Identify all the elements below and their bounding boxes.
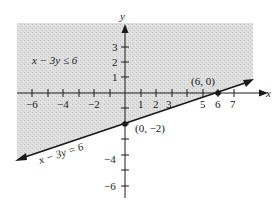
y-tick-label: 2 — [112, 56, 118, 68]
y-tick-label: 1 — [112, 71, 118, 83]
x-tick-label: 7 — [230, 98, 236, 110]
point-x-intercept — [215, 90, 221, 96]
x-tick-label: −2 — [88, 98, 100, 110]
x-tick-label: −4 — [57, 98, 69, 110]
x-axis-label: x — [265, 87, 271, 99]
x-tick-label: 2 — [153, 98, 159, 110]
y-tick-label: −6 — [104, 180, 116, 192]
inequality-label: x − 3y ≤ 6 — [31, 54, 78, 66]
x-tick-label: 6 — [215, 98, 221, 110]
x-tick-label: 5 — [200, 98, 206, 110]
line-arrow-right-icon — [243, 79, 254, 87]
y-tick-label: −4 — [104, 153, 116, 165]
y-tick-label: 3 — [112, 41, 118, 53]
x-tick-label: 1 — [138, 98, 144, 110]
point-y-intercept — [122, 121, 128, 127]
inequality-graph: y x −6 −4 −2 1 2 3 5 6 7 3 2 1 −4 −6 x −… — [0, 0, 275, 211]
x-tick-label: 3 — [166, 98, 172, 110]
point-label-x-intercept: (6, 0) — [191, 75, 215, 88]
y-axis-label: y — [119, 10, 125, 22]
point-label-y-intercept: (0, −2) — [135, 122, 165, 135]
x-tick-label: −6 — [26, 98, 38, 110]
